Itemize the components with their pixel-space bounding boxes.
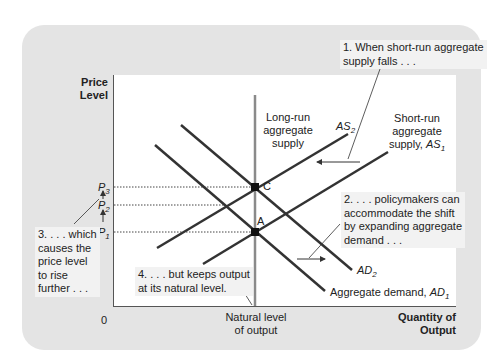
annotation-2-line3: by expanding aggregate xyxy=(344,220,462,234)
point-a-label: A xyxy=(257,215,264,228)
p1-label: P1 xyxy=(98,226,110,243)
annotation-3-line2: causes the xyxy=(38,242,97,256)
note2-connector xyxy=(309,224,340,258)
as1-label: Short-run aggregate supply, AS1 xyxy=(382,112,452,155)
annotation-3-line1: 3. . . . which xyxy=(38,228,97,242)
annotation-1: 1. When short-run aggregate supply falls… xyxy=(340,40,487,69)
y-axis-label-line2: Level xyxy=(76,89,108,102)
annotation-3: 3. . . . which causes the price level to… xyxy=(35,227,100,297)
x-axis-label-line2: Output xyxy=(380,324,456,337)
annotation-3-line5: further . . . xyxy=(38,282,97,296)
annotation-3-line4: to rise xyxy=(38,269,97,283)
p3-label: P3 xyxy=(98,181,110,198)
annotation-2-line4: demand . . . xyxy=(344,234,462,248)
annotation-2-line2: accommodate the shift xyxy=(344,207,462,221)
lras-label-line2: aggregate xyxy=(258,124,318,137)
point-a-marker xyxy=(251,228,259,236)
note1-connector xyxy=(348,69,380,159)
annotation-4: 4. . . . but keeps output at its natural… xyxy=(135,267,253,296)
note3-connector xyxy=(74,199,99,224)
as2-label: AS2 xyxy=(336,120,355,137)
point-c-label: C xyxy=(263,180,271,193)
as1-label-line2: aggregate xyxy=(382,125,452,138)
lras-label-line3: supply xyxy=(258,137,318,150)
as1-label-line1: Short-run xyxy=(382,112,452,125)
annotation-2-line1: 2. . . . policymakers can xyxy=(344,193,462,207)
y-axis-label-line1: Price xyxy=(76,76,108,89)
lras-label-line1: Long-run xyxy=(258,111,318,124)
natural-level-line1: Natural level xyxy=(218,311,294,324)
origin-label: 0 xyxy=(101,314,107,327)
p2-label: P2 xyxy=(98,199,110,216)
point-c-marker xyxy=(251,183,259,191)
natural-level-line2: of output xyxy=(218,324,294,337)
annotation-1-line1: 1. When short-run aggregate xyxy=(343,41,484,55)
lras-label: Long-run aggregate supply xyxy=(258,111,318,150)
annotation-3-line3: price level xyxy=(38,255,97,269)
annotation-1-line2: supply falls . . . xyxy=(343,55,484,69)
ad1-label: Aggregate demand, AD1 xyxy=(330,286,449,303)
as1-label-line3: supply, AS1 xyxy=(382,138,452,155)
y-axis-label: Price Level xyxy=(76,76,108,102)
annotation-2: 2. . . . policymakers can accommodate th… xyxy=(341,192,465,248)
ad2-label: AD2 xyxy=(357,264,377,281)
natural-level-label: Natural level of output xyxy=(218,311,294,337)
annotation-4-line1: 4. . . . but keeps output xyxy=(138,268,250,282)
annotation-4-line2: at its natural level. xyxy=(138,282,250,296)
x-axis-label-line1: Quantity of xyxy=(380,311,456,324)
x-axis-label: Quantity of Output xyxy=(380,311,456,337)
